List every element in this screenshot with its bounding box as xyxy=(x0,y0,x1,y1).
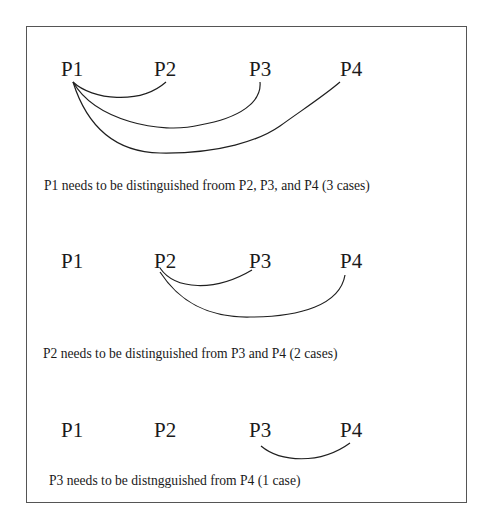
diagram-frame xyxy=(26,26,467,503)
node-p4: P4 xyxy=(340,251,362,272)
node-p1: P1 xyxy=(61,420,83,441)
node-p3: P3 xyxy=(249,59,271,80)
node-p2: P2 xyxy=(154,59,176,80)
node-p3: P3 xyxy=(249,251,271,272)
node-p2: P2 xyxy=(154,420,176,441)
node-p2: P2 xyxy=(154,251,176,272)
caption-1: P1 needs to be distinguished froom P2, P… xyxy=(44,179,370,193)
node-p1: P1 xyxy=(61,59,83,80)
node-p3: P3 xyxy=(249,420,271,441)
node-p4: P4 xyxy=(340,59,362,80)
node-p4: P4 xyxy=(340,420,362,441)
node-p1: P1 xyxy=(61,251,83,272)
caption-3: P3 needs to be distngguished from P4 (1 … xyxy=(49,474,300,488)
caption-2: P2 needs to be distinguished from P3 and… xyxy=(43,347,338,361)
